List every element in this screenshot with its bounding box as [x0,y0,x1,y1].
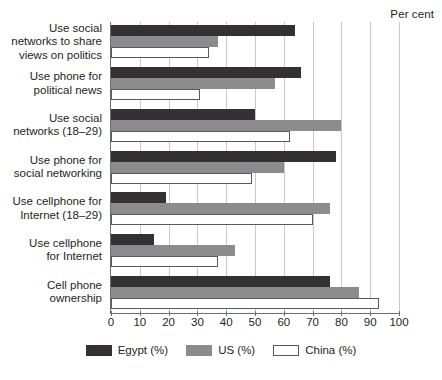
tick-label-40: 40 [220,316,233,328]
bar-egypt [111,151,336,162]
bar-china [111,214,313,225]
category-label: Use socialnetworks to shareviews on poli… [0,22,102,63]
legend-label: Egypt (%) [118,344,169,356]
tick-label-90: 90 [364,316,377,328]
bar-group [111,109,399,142]
bar-china [111,173,252,184]
bar-china [111,131,290,142]
bar-group [111,192,399,225]
category-label-column: Use socialnetworks to shareviews on poli… [0,22,108,314]
bar-group [111,67,399,100]
category-label: Use cellphonefor Internet [0,237,102,264]
bar-group [111,25,399,58]
category-label: Use cellphone forInternet (18–29) [0,195,102,222]
bar-china [111,298,379,309]
category-label: Use socialnetworks (18–29) [0,112,102,139]
category-label-line: ownership [0,292,102,306]
bar-us [111,287,359,298]
category-label-line: networks to share [0,35,102,49]
bar-egypt [111,192,166,203]
category-label-line: Use cellphone for [0,195,102,209]
category-label-line: Use cellphone [0,237,102,251]
bar-egypt [111,234,154,245]
category-label-line: Use social [0,22,102,36]
plot-area [111,22,399,314]
legend-item-china[interactable]: China (%) [273,344,356,356]
tick-label-20: 20 [162,316,175,328]
category-label: Cell phoneownership [0,279,102,306]
bar-us [111,120,341,131]
tick-label-70: 70 [306,316,319,328]
category-label-line: Use phone for [0,70,102,84]
legend-item-us[interactable]: US (%) [186,344,255,356]
category-label-line: networks (18–29) [0,125,102,139]
legend-label: China (%) [305,344,356,356]
x-axis-ticks: 0102030405060708090100 [0,316,442,332]
bar-group [111,234,399,267]
legend-swatch-egypt-icon [86,345,112,356]
bar-egypt [111,109,255,120]
bar-chart: Per cent Use socialnetworks to shareview… [0,0,442,380]
bar-us [111,36,218,47]
bar-china [111,47,209,58]
category-label-line: Cell phone [0,279,102,293]
category-label-line: social networking [0,167,102,181]
legend-item-egypt[interactable]: Egypt (%) [86,344,169,356]
bar-group [111,276,399,309]
category-label: Use phone forpolitical news [0,70,102,97]
bar-egypt [111,276,330,287]
category-label-line: Use phone for [0,154,102,168]
tick-label-0: 0 [108,316,114,328]
category-label-line: Internet (18–29) [0,209,102,223]
tick-label-60: 60 [277,316,290,328]
bar-china [111,89,200,100]
legend-label: US (%) [218,344,255,356]
bar-china [111,256,218,267]
legend-swatch-us-icon [186,345,212,356]
bar-us [111,162,284,173]
legend-swatch-china-icon [273,345,299,356]
gridline-100 [399,22,400,314]
tick-label-80: 80 [335,316,348,328]
category-label: Use phone forsocial networking [0,154,102,181]
bar-us [111,78,275,89]
percent-axis-caption: Per cent [390,8,434,20]
category-label-line: views on politics [0,49,102,63]
bar-us [111,245,235,256]
tick-label-30: 30 [191,316,204,328]
category-label-line: Use social [0,112,102,126]
chart-legend: Egypt (%)US (%)China (%) [0,344,442,356]
bar-us [111,203,330,214]
tick-label-100: 100 [389,316,408,328]
bar-egypt [111,67,301,78]
tick-label-50: 50 [249,316,262,328]
tick-label-10: 10 [133,316,146,328]
bar-rows [111,22,399,314]
bar-egypt [111,25,295,36]
bar-group [111,151,399,184]
category-label-line: for Internet [0,250,102,264]
category-label-line: political news [0,84,102,98]
